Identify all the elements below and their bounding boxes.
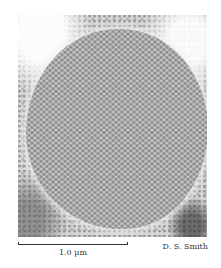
hexagonal-lattice-disc: [26, 29, 207, 229]
image-credit: D. S. Smith: [160, 242, 208, 251]
scale-bar-label: 1.0 μm: [18, 248, 128, 257]
figure: 1.0 μm D. S. Smith: [0, 0, 221, 268]
scale-bar: [18, 242, 128, 245]
micrograph-image: [18, 15, 207, 237]
